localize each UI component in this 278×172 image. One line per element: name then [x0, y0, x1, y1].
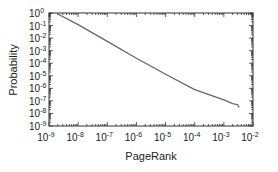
y-tick-label: 10-6 — [29, 82, 46, 94]
y-tick-label: 100 — [29, 7, 44, 19]
x-axis-tick-labels: 10-910-810-710-610-510-410-310-2 — [37, 131, 258, 143]
x-tick-label: 10-4 — [183, 131, 200, 143]
y-tick-label: 10-1 — [29, 20, 46, 32]
x-tick-label: 10-9 — [37, 131, 54, 143]
y-tick-label: 10-5 — [29, 70, 46, 82]
plot-frame — [49, 13, 253, 126]
x-axis-ticks — [49, 13, 253, 126]
y-tick-label: 10-8 — [29, 107, 46, 119]
x-tick-label: 10-7 — [96, 131, 113, 143]
y-tick-label: 10-9 — [29, 120, 46, 132]
y-tick-label: 10-2 — [29, 32, 46, 44]
y-tick-label: 10-4 — [29, 57, 46, 69]
x-tick-label: 10-8 — [66, 131, 83, 143]
x-tick-label: 10-5 — [154, 131, 171, 143]
y-tick-label: 10-3 — [29, 45, 46, 57]
y-axis-title: Probability — [7, 44, 19, 96]
x-tick-label: 10-2 — [241, 131, 258, 143]
x-tick-label: 10-3 — [212, 131, 229, 143]
x-axis-title: PageRank — [125, 150, 177, 162]
pagerank-chart: 10-910-810-710-610-510-410-310-2 10010-1… — [0, 0, 278, 172]
y-axis-tick-labels: 10010-110-210-310-410-510-610-710-810-9 — [29, 7, 46, 132]
data-line — [58, 14, 239, 108]
x-tick-label: 10-6 — [125, 131, 142, 143]
y-axis-ticks — [49, 13, 253, 126]
y-tick-label: 10-7 — [29, 95, 46, 107]
